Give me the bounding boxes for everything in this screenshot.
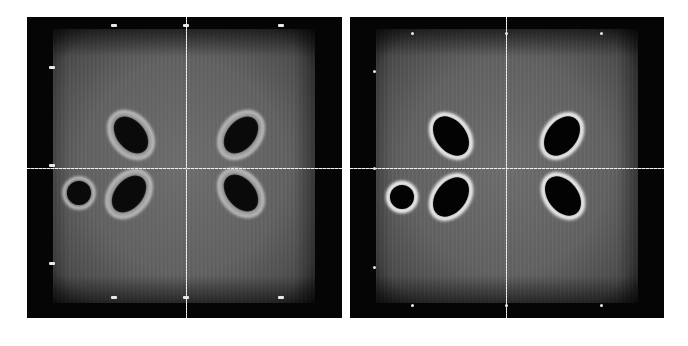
marker-top-center: [505, 32, 508, 35]
ellipse-object: [210, 161, 273, 225]
circle-object: [388, 183, 416, 211]
marker-left-middle: [49, 164, 55, 167]
marker-top-left: [111, 24, 117, 27]
marker-bottom-right: [278, 296, 284, 299]
crosshair-horizontal: [27, 168, 342, 169]
marker-left-lower: [373, 266, 376, 269]
right-image-panel: [350, 17, 664, 318]
marker-bottom-center: [183, 296, 189, 299]
ellipse-object: [423, 168, 479, 227]
ellipse-object: [100, 103, 163, 167]
marker-bottom-left: [111, 296, 117, 299]
marker-top-left: [411, 32, 414, 35]
marker-bottom-center: [505, 304, 508, 307]
marker-top-center: [183, 24, 189, 27]
ellipse-object: [98, 162, 161, 226]
ellipse-object: [535, 167, 591, 226]
marker-bottom-left: [411, 304, 414, 307]
marker-left-middle: [373, 167, 376, 170]
marker-bottom-right: [600, 304, 603, 307]
marker-top-right: [600, 32, 603, 35]
left-image-panel: [27, 17, 342, 318]
marker-left-upper: [49, 66, 55, 69]
ellipse-object: [210, 103, 273, 167]
circle-object: [64, 178, 94, 208]
ellipse-object: [534, 107, 590, 166]
marker-left-upper: [373, 70, 376, 73]
marker-top-right: [278, 24, 284, 27]
crosshair-horizontal: [350, 168, 664, 169]
marker-left-lower: [49, 262, 55, 265]
ellipse-object: [423, 107, 479, 166]
